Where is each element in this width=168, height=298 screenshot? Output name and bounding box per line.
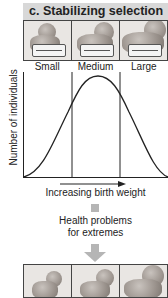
- down-arrow-icon: [84, 244, 106, 262]
- annotation-line-2: for extremes: [23, 227, 168, 239]
- photo-medium: [72, 21, 120, 60]
- annotation-text: Health problems for extremes: [23, 215, 168, 239]
- panel-header: c. Stabilizing selection: [23, 3, 168, 20]
- scale-icon: [32, 44, 66, 57]
- photo-large: [120, 21, 167, 60]
- distribution-graph: [23, 72, 168, 178]
- baby-body-icon: [32, 281, 58, 297]
- top-photo-row: [23, 20, 168, 61]
- photo-bottom-3: [120, 265, 167, 297]
- baby-body-icon: [80, 281, 110, 297]
- baby-body-icon: [124, 279, 162, 297]
- x-axis-label: Increasing birth weight: [23, 187, 168, 198]
- connector-square-icon: [91, 204, 99, 212]
- bottom-photo-row: [23, 264, 168, 298]
- photo-small: [24, 21, 72, 60]
- scale-icon: [80, 44, 114, 57]
- photo-bottom-2: [72, 265, 120, 297]
- scale-icon: [128, 44, 162, 57]
- bell-curve: [24, 76, 168, 177]
- y-axis-label: Number of individuals: [8, 86, 19, 166]
- panel-title: c. Stabilizing selection: [29, 4, 163, 18]
- photo-bottom-1: [24, 265, 72, 297]
- annotation-line-1: Health problems: [23, 215, 168, 227]
